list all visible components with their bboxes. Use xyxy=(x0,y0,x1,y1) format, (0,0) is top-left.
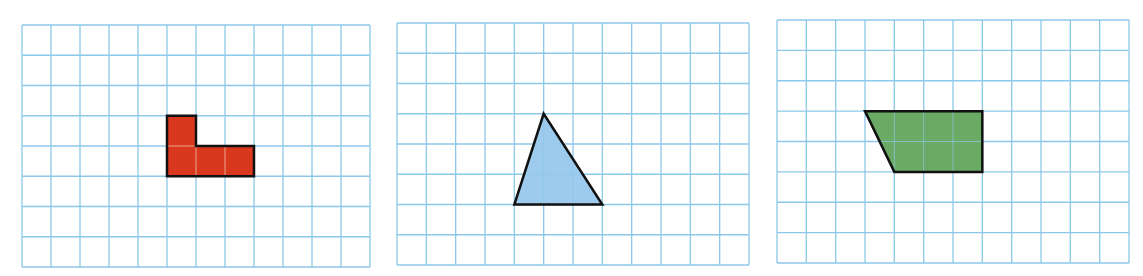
grid-panel-1 xyxy=(22,25,370,267)
grid-canvas-2 xyxy=(397,23,749,265)
grid-lines xyxy=(397,23,749,265)
grid-canvas-3 xyxy=(777,20,1129,263)
grid-canvas-1 xyxy=(22,25,370,267)
grid-panel-3 xyxy=(777,20,1129,263)
triangle-shape xyxy=(514,114,602,205)
grid-panel-2 xyxy=(397,23,749,265)
